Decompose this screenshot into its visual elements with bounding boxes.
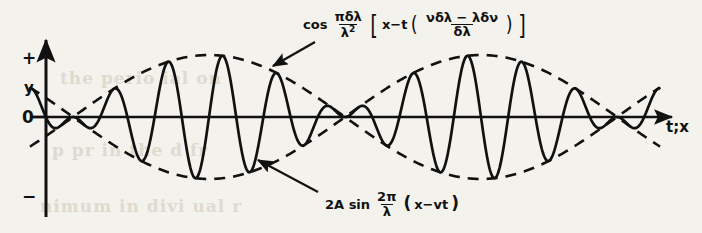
carrier-formula-annotation: 2A sin 2π λ ( x−vt ): [325, 190, 459, 218]
envelope-body-left: x−t: [382, 18, 408, 31]
x-axis-label: t;x: [666, 118, 689, 136]
envelope-frac-denominator: λ2: [339, 24, 358, 40]
carrier-frac-numerator: 2π: [375, 190, 398, 204]
y-axis-tick-plus: +: [22, 48, 36, 68]
beats-diagram-figure: the perio ial on p pr in the d fr nimum …: [0, 0, 702, 233]
carrier-body: x−vt: [414, 198, 448, 211]
envelope-inner-numerator: νδλ − λδν: [424, 11, 500, 25]
envelope-frac-numerator: πδλ: [332, 10, 363, 24]
y-axis-tick-zero: 0: [22, 107, 34, 127]
y-axis-tick-y: y: [24, 79, 34, 97]
envelope-formula-cos: cos: [303, 18, 327, 31]
envelope-bracket-close: ]: [518, 14, 526, 36]
envelope-formula-annotation: cos πδλ λ2 [ x−t ( νδλ − λδν δλ ) ]: [303, 10, 527, 40]
envelope-formula-fraction: πδλ λ2: [332, 10, 363, 40]
carrier-paren-open: (: [403, 196, 411, 211]
carrier-formula-fraction: 2π λ: [375, 190, 398, 218]
envelope-frac-den-exponent: 2: [349, 24, 355, 34]
envelope-paren-open: (: [411, 15, 418, 34]
y-axis-tick-minus: −: [22, 186, 36, 206]
carrier-formula-prefix: 2A sin: [325, 198, 370, 211]
envelope-frac-den-base: λ: [341, 25, 349, 40]
envelope-inner-denominator: δλ: [451, 24, 472, 39]
envelope-annotation-arrow: [273, 42, 315, 66]
carrier-paren-close: ): [451, 196, 459, 211]
carrier-frac-denominator: λ: [381, 204, 393, 219]
envelope-bracket-open: [: [370, 14, 378, 36]
envelope-paren-close: ): [506, 15, 513, 34]
envelope-lower-curve: [30, 118, 660, 179]
envelope-inner-fraction: νδλ − λδν δλ: [424, 11, 500, 39]
carrier-annotation-arrow: [258, 160, 318, 192]
